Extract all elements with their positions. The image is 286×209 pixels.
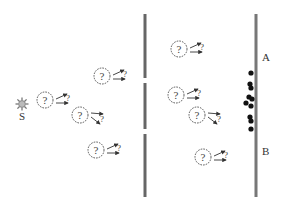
hit-dot [243, 100, 248, 105]
particle-question-mark: ? [201, 151, 206, 163]
uncertain-particle: ?? [72, 107, 104, 124]
svg-text:?: ? [217, 114, 221, 124]
svg-text:?: ? [117, 143, 121, 153]
uncertain-particle: ?? [37, 92, 70, 108]
direction-arrows-icon: ? [113, 69, 127, 79]
hit-dot [248, 126, 253, 131]
uncertain-particle: ?? [171, 41, 204, 57]
particle-question-mark: ? [195, 109, 200, 121]
direction-arrows-icon: ? [107, 143, 121, 153]
source [16, 98, 29, 111]
uncertain-particle: ?? [94, 68, 127, 84]
barrier-segment [144, 134, 147, 197]
double-slit-barrier [144, 14, 147, 197]
direction-arrows-icon: ? [56, 93, 70, 103]
source-label: S [19, 110, 25, 122]
direction-arrows-icon: ? [91, 113, 104, 124]
uncertain-particle: ?? [88, 142, 121, 158]
particle-question-mark: ? [43, 94, 48, 106]
particle-question-mark: ? [78, 109, 83, 121]
hit-dot [248, 103, 253, 108]
particles-before-slits: ???????? [37, 68, 127, 158]
hit-dot [248, 85, 253, 90]
direction-arrows-icon: ? [214, 150, 228, 160]
svg-text:?: ? [197, 88, 201, 98]
svg-text:?: ? [200, 42, 204, 52]
hit-dot [249, 96, 254, 101]
uncertain-particle: ?? [189, 107, 221, 124]
direction-arrows-icon: ? [208, 113, 221, 124]
particle-question-mark: ? [100, 70, 105, 82]
uncertain-particle: ?? [195, 149, 228, 165]
svg-text:?: ? [66, 93, 70, 103]
direction-arrows-icon: ? [190, 42, 204, 52]
screen-label-a: A [262, 51, 270, 63]
uncertain-particle: ?? [168, 87, 201, 103]
hit-dot [248, 70, 253, 75]
screen-hit-pattern [243, 70, 254, 131]
double-slit-diagram: S A B ???????? ???????? [0, 0, 286, 209]
hit-dot [248, 118, 253, 123]
sun-icon [16, 98, 29, 111]
screen-label-b: B [262, 145, 269, 157]
particles-after-slits: ???????? [168, 41, 228, 165]
particle-question-mark: ? [94, 144, 99, 156]
svg-text:?: ? [100, 114, 104, 124]
detection-screen [255, 14, 258, 197]
barrier-segment [144, 14, 147, 78]
svg-text:?: ? [123, 69, 127, 79]
direction-arrows-icon: ? [187, 88, 201, 98]
particle-question-mark: ? [177, 43, 182, 55]
svg-text:?: ? [224, 150, 228, 160]
barrier-segment [144, 83, 147, 129]
screen-line [255, 14, 258, 197]
particle-question-mark: ? [174, 89, 179, 101]
